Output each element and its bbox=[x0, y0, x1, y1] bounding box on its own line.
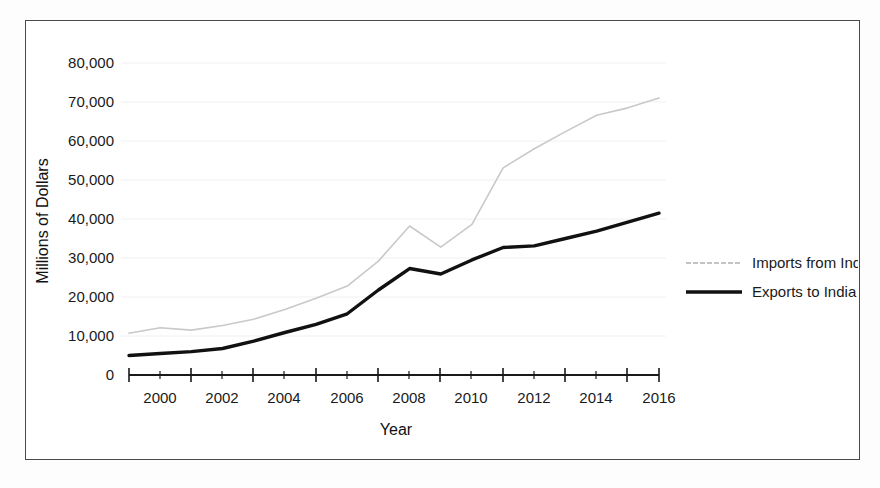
y-axis-tick-labels: 80,000 70,000 60,000 50,000 40,000 30,00… bbox=[68, 54, 114, 383]
x-tick-label: 2016 bbox=[642, 389, 675, 406]
chart-legend: Imports from India Exports to India bbox=[686, 254, 858, 300]
y-tick-label: 10,000 bbox=[68, 327, 114, 344]
figure-border-frame: 80,000 70,000 60,000 50,000 40,000 30,00… bbox=[25, 20, 860, 460]
y-tick-label: 60,000 bbox=[68, 132, 114, 149]
y-axis-title: Millions of Dollars bbox=[34, 158, 51, 283]
x-tick-label: 2012 bbox=[517, 389, 550, 406]
x-tick-label: 2004 bbox=[267, 389, 300, 406]
x-tick-label: 2008 bbox=[392, 389, 425, 406]
x-axis-tick-labels: 2000 2002 2004 2006 2008 2010 2012 2014 … bbox=[143, 389, 675, 406]
line-chart: 80,000 70,000 60,000 50,000 40,000 30,00… bbox=[26, 21, 858, 458]
series-line-exports-to-india bbox=[129, 213, 659, 355]
scan-artifact-gridlines bbox=[121, 63, 666, 336]
y-tick-label: 70,000 bbox=[68, 93, 114, 110]
y-tick-label: 40,000 bbox=[68, 210, 114, 227]
x-axis-title: Year bbox=[380, 421, 413, 438]
x-tick-label: 2014 bbox=[579, 389, 612, 406]
series-line-imports-from-india bbox=[129, 98, 659, 333]
y-tick-label: 20,000 bbox=[68, 288, 114, 305]
x-tick-label: 2006 bbox=[330, 389, 363, 406]
y-tick-label: 30,000 bbox=[68, 249, 114, 266]
x-tick-label: 2000 bbox=[143, 389, 176, 406]
y-tick-label: 0 bbox=[106, 366, 114, 383]
y-tick-label: 80,000 bbox=[68, 54, 114, 71]
figure-root: 80,000 70,000 60,000 50,000 40,000 30,00… bbox=[0, 0, 880, 488]
legend-label-imports-from-india: Imports from India bbox=[752, 254, 858, 271]
y-tick-label: 50,000 bbox=[68, 171, 114, 188]
x-tick-label: 2010 bbox=[454, 389, 487, 406]
x-tick-label: 2002 bbox=[205, 389, 238, 406]
legend-label-exports-to-india: Exports to India bbox=[752, 283, 857, 300]
